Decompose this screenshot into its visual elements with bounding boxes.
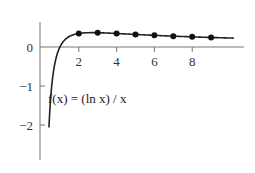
data-point <box>95 30 101 36</box>
tick-labels: 24680−1−2 <box>19 40 195 133</box>
data-point <box>133 31 139 37</box>
chart: 24680−1−2 f(x) = (ln x) / x <box>0 0 255 173</box>
x-tick-label: 6 <box>151 54 158 69</box>
y-tick-label: −1 <box>19 79 33 94</box>
data-point <box>170 33 176 39</box>
data-point <box>151 32 157 38</box>
y-tick-label: −2 <box>19 118 33 133</box>
x-tick-label: 8 <box>189 54 196 69</box>
x-tick-label: 2 <box>76 54 83 69</box>
data-point <box>76 30 82 36</box>
data-point <box>189 34 195 40</box>
data-point <box>208 34 214 40</box>
y-tick-label: 0 <box>27 40 34 55</box>
data-point <box>114 30 120 36</box>
function-label: f(x) = (ln x) / x <box>48 91 127 106</box>
x-tick-label: 4 <box>113 54 120 69</box>
